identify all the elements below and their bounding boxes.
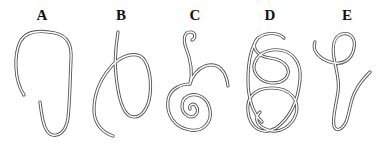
worm-shape-c: [168, 32, 228, 130]
worm-shapes-figure: A B C D E: [0, 0, 389, 145]
worm-shape-e: [314, 34, 370, 130]
worm-shape-a: [16, 31, 71, 135]
worm-drawings: [0, 0, 389, 145]
worm-shape-b: [94, 32, 151, 136]
worm-shape-d: [248, 34, 300, 132]
